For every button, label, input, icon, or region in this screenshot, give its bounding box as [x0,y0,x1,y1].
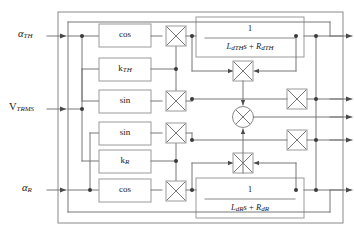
summing-junction [233,107,254,128]
block-label-k-th: kTH [99,63,151,74]
multiplier-feedback-th [233,61,253,81]
block-label-cos-th: cos [99,29,151,39]
multiplier-cos-r [166,181,186,201]
block-label-cos-r: cos [99,184,151,194]
multiplier-sin-r [166,123,186,143]
tf-r-numerator: 1 [196,184,304,194]
input-label-v-trms: VTRMS [9,101,34,113]
multiplier-output-lower [287,130,307,150]
block-label-sin-th: sin [99,95,151,105]
multiplier-cos-th [166,26,186,46]
block-diagram-figure: αTH VTRMS αR cos kTH sin sin kR cos 1 Ld… [0,0,354,235]
tf-th-denominator: LdTHs + RdTH [196,41,304,52]
block-label-sin-r: sin [99,127,151,137]
input-label-alpha-th: αTH [18,28,32,40]
multiplier-sin-th [166,91,186,111]
tf-th-numerator: 1 [196,23,304,33]
tf-r-denominator: LdRs + RdR [196,202,304,213]
multiplier-output-upper [287,89,307,109]
input-label-alpha-r: αR [22,182,32,194]
diagram-canvas [0,0,354,235]
block-label-k-r: kR [99,155,151,166]
